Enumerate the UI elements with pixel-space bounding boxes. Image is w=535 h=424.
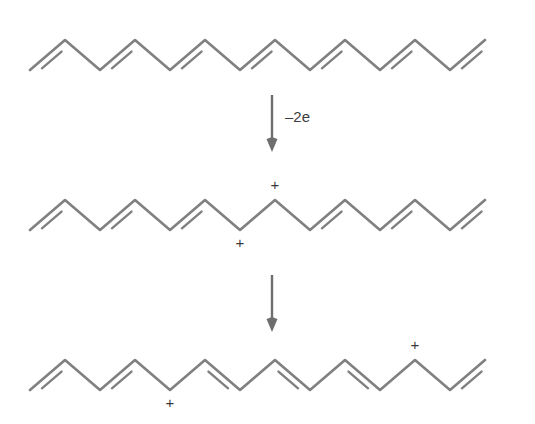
neutral-chain bbox=[30, 40, 485, 70]
double-bond-line bbox=[462, 372, 482, 389]
double-bond-line bbox=[462, 52, 482, 69]
double-bond-line bbox=[322, 212, 342, 229]
double-bond-line bbox=[322, 52, 342, 69]
double-bond-line bbox=[208, 372, 228, 389]
double-bond-line bbox=[42, 212, 62, 229]
chain-backbone bbox=[30, 360, 485, 390]
arrow-head bbox=[267, 317, 278, 332]
arrow-head bbox=[267, 137, 278, 152]
reagent-label: –2e bbox=[285, 108, 310, 125]
scheme-canvas: –2e ++++ bbox=[0, 0, 535, 424]
double-bond-line bbox=[462, 212, 482, 229]
reaction-scheme-figure: –2e ++++ bbox=[0, 0, 535, 424]
positive-charge-label: + bbox=[166, 394, 175, 411]
positive-charge-label: + bbox=[236, 234, 245, 251]
double-bond-line bbox=[112, 52, 132, 69]
positive-charge-label: + bbox=[411, 336, 420, 353]
bipolaron-chain bbox=[30, 200, 485, 230]
double-bond-line bbox=[42, 372, 62, 389]
double-bond-line bbox=[182, 212, 202, 229]
double-bond-line bbox=[392, 212, 412, 229]
double-bond-line bbox=[112, 372, 132, 389]
chain-backbone bbox=[30, 40, 485, 70]
separated-polarons-chain bbox=[30, 360, 485, 390]
double-bond-line bbox=[252, 52, 272, 69]
positive-charge-label: + bbox=[271, 176, 280, 193]
double-bond-line bbox=[182, 52, 202, 69]
double-bond-line bbox=[42, 52, 62, 69]
double-bond-line bbox=[112, 212, 132, 229]
polaron-separation-arrow bbox=[267, 275, 278, 332]
double-bond-line bbox=[392, 52, 412, 69]
arrows-layer: –2e bbox=[267, 95, 311, 332]
chain-backbone bbox=[30, 200, 485, 230]
double-bond-line bbox=[348, 372, 368, 389]
oxidation-arrow: –2e bbox=[267, 95, 311, 152]
double-bond-line bbox=[278, 372, 298, 389]
